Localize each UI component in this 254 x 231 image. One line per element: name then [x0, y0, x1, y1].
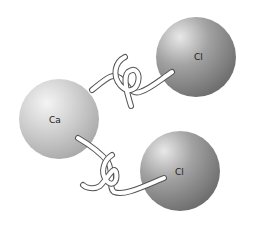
- calcium-chloride-diagram: Cl Cl Ca: [0, 0, 254, 231]
- atom-label: Ca: [49, 115, 61, 125]
- chlorine-atom-bottom: Cl: [140, 131, 220, 211]
- atom-label: Cl: [194, 52, 203, 62]
- atom-label: Cl: [175, 167, 184, 177]
- chlorine-atom-top: Cl: [156, 17, 236, 97]
